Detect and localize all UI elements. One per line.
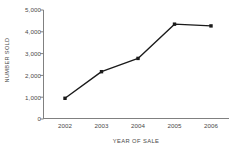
y-axis-tick-label: 0 bbox=[15, 115, 41, 122]
x-axis-tick-label: 2006 bbox=[196, 122, 226, 130]
series-line bbox=[65, 24, 211, 98]
y-axis-tick-label: 2,000 bbox=[15, 72, 41, 79]
y-axis-tick-label: 3,000 bbox=[15, 50, 41, 57]
series-markers bbox=[63, 22, 212, 100]
plot-area bbox=[43, 10, 229, 119]
x-axis-tick-label: 2002 bbox=[50, 122, 80, 130]
y-axis-tick-labels: 01,0002,0003,0004,0005,000 bbox=[12, 0, 41, 126]
line-chart: NUMBER SOLD 01,0002,0003,0004,0005,000 2… bbox=[0, 0, 240, 159]
y-axis-tick-label: 1,000 bbox=[15, 94, 41, 101]
y-axis-title-text: NUMBER SOLD bbox=[4, 37, 10, 82]
x-axis-tick-label: 2005 bbox=[160, 122, 190, 130]
x-axis-title: YEAR OF SALE bbox=[43, 138, 229, 144]
data-point-marker bbox=[136, 57, 139, 60]
y-axis-tick-label: 4,000 bbox=[15, 28, 41, 35]
data-point-marker bbox=[63, 97, 66, 100]
x-axis-tick-label: 2004 bbox=[123, 122, 153, 130]
x-axis-tick-labels: 20022003200420052006 bbox=[43, 122, 229, 132]
data-point-marker bbox=[100, 70, 103, 73]
x-axis-tick-label: 2003 bbox=[87, 122, 117, 130]
data-point-marker bbox=[173, 22, 176, 25]
data-point-marker bbox=[209, 24, 212, 27]
data-series bbox=[43, 10, 229, 119]
y-axis-tick-label: 5,000 bbox=[15, 6, 41, 13]
